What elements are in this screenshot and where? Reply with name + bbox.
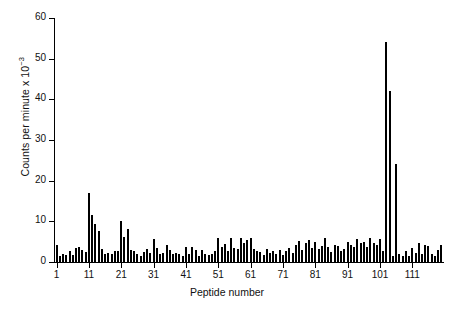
x-axis-ticks: 1112131415161718191101111 xyxy=(54,263,444,287)
y-tick-label: 40 xyxy=(35,92,46,103)
bar xyxy=(275,254,277,262)
bar xyxy=(140,256,142,262)
bar xyxy=(402,256,404,262)
bar xyxy=(415,253,417,262)
bar xyxy=(356,239,358,262)
bar xyxy=(221,247,223,262)
x-tick-label: 21 xyxy=(116,269,127,280)
bar xyxy=(256,251,258,262)
x-tick xyxy=(186,263,187,268)
bar xyxy=(411,248,413,262)
bar xyxy=(114,251,116,262)
bar xyxy=(120,221,122,262)
x-tick xyxy=(348,263,349,268)
bar xyxy=(101,249,103,262)
bar xyxy=(172,254,174,262)
bar xyxy=(169,250,171,262)
bar xyxy=(133,251,135,262)
bar xyxy=(382,251,384,262)
bar xyxy=(292,253,294,262)
bar xyxy=(318,249,320,262)
bar xyxy=(324,238,326,262)
bar xyxy=(279,250,281,262)
bar xyxy=(343,249,345,262)
y-tick-label: 20 xyxy=(35,174,46,185)
x-tick-label: 91 xyxy=(342,269,353,280)
x-tick xyxy=(380,263,381,268)
bar xyxy=(334,245,336,262)
x-tick-label: 1 xyxy=(54,269,60,280)
bar xyxy=(314,242,316,262)
bar xyxy=(227,251,229,262)
bar xyxy=(156,248,158,262)
bar xyxy=(269,253,271,262)
bar xyxy=(91,215,93,262)
x-tick-label: 81 xyxy=(310,269,321,280)
bar xyxy=(208,255,210,262)
bar xyxy=(107,253,109,262)
bar xyxy=(282,255,284,262)
bar xyxy=(337,246,339,262)
bar xyxy=(72,255,74,262)
bar xyxy=(418,243,420,262)
bar xyxy=(201,250,203,262)
y-axis-label-exponent: −3 xyxy=(17,57,26,66)
bar xyxy=(405,251,407,262)
bar xyxy=(366,247,368,262)
y-tick-label: 30 xyxy=(35,133,46,144)
bar xyxy=(437,250,439,262)
bar xyxy=(353,247,355,262)
bar xyxy=(214,251,216,262)
x-tick-label: 111 xyxy=(405,269,420,280)
bar xyxy=(288,248,290,262)
bar xyxy=(56,245,58,262)
bar xyxy=(285,251,287,262)
bar xyxy=(360,243,362,262)
bar xyxy=(253,249,255,262)
bar xyxy=(424,245,426,262)
x-axis-label: Peptide number xyxy=(0,286,454,298)
bar xyxy=(363,242,365,262)
bar xyxy=(301,250,303,262)
x-tick xyxy=(57,263,58,268)
y-axis-label: Counts per minute x 10−3 xyxy=(17,7,31,227)
x-tick-label: 61 xyxy=(245,269,256,280)
bar xyxy=(195,250,197,262)
bar xyxy=(237,249,239,262)
bar xyxy=(127,229,129,262)
bar xyxy=(159,254,161,262)
bar xyxy=(233,248,235,262)
bar xyxy=(298,241,300,262)
bar xyxy=(69,251,71,262)
bar xyxy=(263,255,265,262)
bar xyxy=(175,253,177,262)
bar xyxy=(162,253,164,262)
bar xyxy=(130,250,132,262)
x-tick xyxy=(251,263,252,268)
bar xyxy=(308,240,310,262)
bar xyxy=(408,256,410,263)
x-tick xyxy=(89,263,90,268)
x-tick xyxy=(315,263,316,268)
bar xyxy=(311,248,313,262)
bar xyxy=(347,242,349,262)
bar xyxy=(149,253,151,262)
bar xyxy=(59,256,61,263)
x-tick-label: 41 xyxy=(180,269,191,280)
bar xyxy=(327,247,329,262)
bar xyxy=(295,245,297,262)
x-tick-label: 101 xyxy=(372,269,389,280)
bar xyxy=(398,254,400,262)
bar xyxy=(75,248,77,262)
bar xyxy=(104,254,106,262)
bar xyxy=(117,251,119,262)
bar xyxy=(376,245,378,262)
bar xyxy=(182,256,184,262)
x-tick-label: 31 xyxy=(148,269,159,280)
x-tick-label: 71 xyxy=(277,269,288,280)
bar xyxy=(94,224,96,262)
bar xyxy=(88,193,90,262)
bar xyxy=(259,252,261,262)
bar xyxy=(379,239,381,262)
bar xyxy=(230,238,232,262)
